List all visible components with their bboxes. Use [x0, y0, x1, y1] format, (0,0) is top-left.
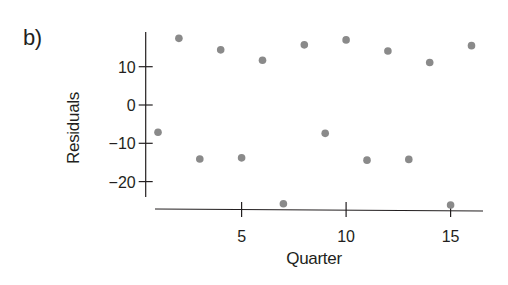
data-point: [447, 201, 455, 209]
data-point: [301, 41, 309, 49]
data-point: [405, 156, 413, 164]
data-point: [175, 35, 183, 43]
data-point: [196, 155, 204, 163]
y-tick-label: −20: [109, 174, 136, 191]
plot-area: 100−10−2051015: [0, 0, 508, 285]
data-point: [363, 156, 371, 164]
data-point: [259, 56, 267, 64]
data-point: [342, 36, 350, 44]
x-tick-label: 15: [442, 228, 460, 245]
data-point: [280, 200, 288, 208]
data-point: [321, 130, 329, 138]
x-tick-label: 10: [337, 228, 355, 245]
data-point: [154, 128, 162, 136]
y-tick-label: −10: [109, 135, 136, 152]
residuals-scatter-chart: b) Residuals Quarter 100−10−2051015: [0, 0, 508, 285]
data-point: [426, 59, 434, 67]
x-tick-label: 5: [237, 228, 246, 245]
data-points: [154, 35, 475, 209]
y-tick-label: 0: [127, 97, 136, 114]
y-tick-label: 10: [118, 59, 136, 76]
data-point: [384, 47, 392, 55]
x-axis-line: [155, 209, 483, 211]
data-point: [468, 42, 476, 50]
data-point: [217, 46, 225, 54]
data-point: [238, 154, 246, 162]
